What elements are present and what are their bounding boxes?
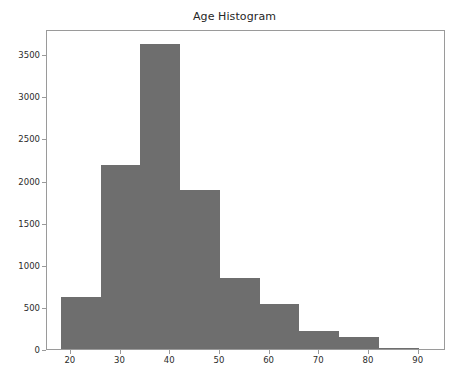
x-axis-tick-label: 40	[154, 356, 184, 365]
figure-canvas: Age Histogram 05001000150020002500300035…	[0, 0, 469, 381]
histogram-bars	[47, 31, 444, 349]
y-axis-tick-label: 2500	[0, 135, 44, 144]
x-axis-tick	[269, 350, 270, 354]
y-axis-tick-label: 2000	[0, 178, 44, 187]
x-axis-tick-label: 70	[303, 356, 333, 365]
x-axis-tick	[318, 350, 319, 354]
x-axis-tick-label: 20	[55, 356, 85, 365]
y-axis-tick-label: 500	[0, 304, 44, 313]
x-axis-tick-label: 60	[254, 356, 284, 365]
y-axis-tick-label: 3500	[0, 51, 44, 60]
histogram-bar	[339, 337, 379, 349]
x-axis-tick-label: 30	[105, 356, 135, 365]
histogram-bar	[379, 348, 419, 349]
x-axis-tick	[368, 350, 369, 354]
histogram-bar	[61, 297, 101, 349]
histogram-bar	[299, 331, 339, 349]
x-axis-tick	[169, 350, 170, 354]
x-axis-tick	[219, 350, 220, 354]
histogram-bar	[140, 44, 180, 349]
histogram-bar	[220, 278, 260, 349]
x-axis-tick-label: 90	[403, 356, 433, 365]
x-axis-tick	[70, 350, 71, 354]
y-axis-tick-label: 1000	[0, 262, 44, 271]
x-axis-tick	[120, 350, 121, 354]
histogram-bar	[180, 190, 220, 349]
y-axis-tick-label: 1500	[0, 220, 44, 229]
histogram-bar	[260, 304, 300, 349]
histogram-bar	[101, 165, 141, 349]
x-axis-tick-label: 50	[204, 356, 234, 365]
plot-area	[46, 30, 445, 350]
x-axis-tick-label: 80	[353, 356, 383, 365]
y-axis-tick-label: 3000	[0, 93, 44, 102]
x-axis-tick	[418, 350, 419, 354]
y-axis-tick-label: 0	[0, 346, 44, 355]
chart-title: Age Histogram	[0, 10, 469, 23]
